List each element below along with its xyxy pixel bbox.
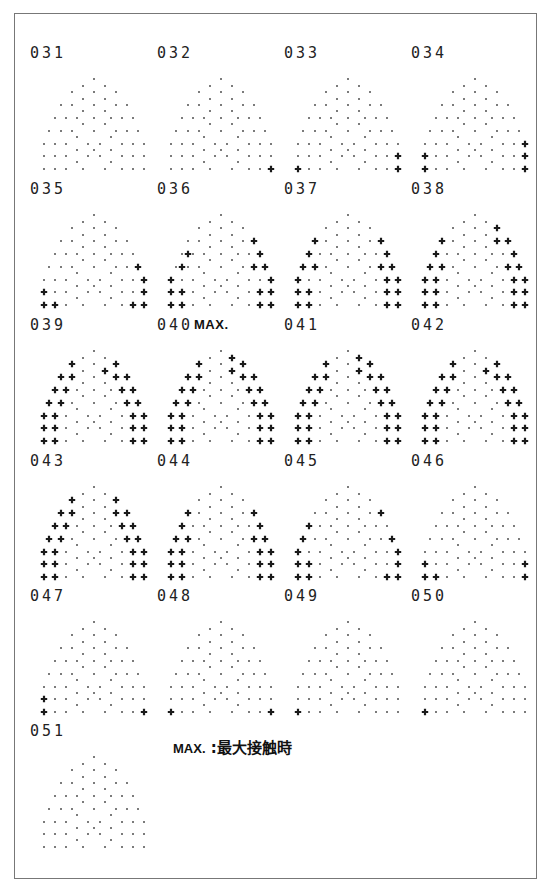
contact-cross-icon: [63, 523, 69, 529]
contact-cross-icon: [516, 400, 522, 406]
contact-cross-icon: [516, 264, 522, 270]
contact-cross-icon: [433, 387, 439, 393]
contact-cross-icon: [378, 264, 384, 270]
contact-cross-icon: [113, 374, 119, 380]
contact-cross-icon: [522, 302, 528, 308]
contact-cross-icon: [185, 510, 191, 516]
contact-cross-icon: [422, 709, 428, 715]
contact-cross-icon: [295, 413, 301, 419]
contact-cross-icon: [494, 225, 500, 231]
contact-cross-icon: [229, 355, 235, 361]
contact-cross-icon: [257, 438, 263, 444]
contact-cross-icon: [141, 561, 147, 567]
contact-cross-icon: [306, 251, 312, 257]
contact-cross-icon: [69, 361, 75, 367]
pattern-cell-036: 036: [157, 180, 282, 310]
contact-cross-icon: [268, 709, 274, 715]
contact-cross-icon: [52, 387, 58, 393]
contact-cross-icon: [251, 264, 257, 270]
contact-cross-icon: [190, 387, 196, 393]
contact-cross-icon: [130, 438, 136, 444]
legend-key: MAX.: [173, 741, 206, 756]
contact-dot-pattern: [411, 452, 536, 582]
contact-cross-icon: [173, 536, 179, 542]
contact-cross-icon: [124, 400, 130, 406]
contact-cross-icon: [389, 264, 395, 270]
contact-dot-pattern: [284, 587, 409, 717]
contact-cross-icon: [168, 561, 174, 567]
contact-dot-pattern: [30, 587, 155, 717]
contact-cross-icon: [522, 141, 528, 147]
contact-cross-icon: [439, 264, 445, 270]
contact-cross-icon: [124, 510, 130, 516]
legend-text: 最大接触時: [217, 739, 292, 757]
contact-cross-icon: [511, 277, 517, 283]
contact-cross-icon: [185, 400, 191, 406]
contact-cross-icon: [251, 510, 257, 516]
contact-cross-icon: [41, 709, 47, 715]
contact-cross-icon: [433, 425, 439, 431]
contact-cross-icon: [323, 361, 329, 367]
contact-cross-icon: [395, 425, 401, 431]
contact-cross-icon: [373, 387, 379, 393]
contact-cross-icon: [179, 523, 185, 529]
contact-cross-icon: [168, 277, 174, 283]
contact-cross-icon: [113, 497, 119, 503]
contact-cross-icon: [494, 238, 500, 244]
contact-cross-icon: [306, 413, 312, 419]
contact-cross-icon: [41, 696, 47, 702]
contact-cross-icon: [179, 574, 185, 580]
contact-cross-icon: [433, 438, 439, 444]
pattern-cell-047: 047: [30, 587, 155, 717]
contact-cross-icon: [262, 536, 268, 542]
contact-dot-pattern: [30, 722, 155, 852]
contact-cross-icon: [52, 549, 58, 555]
contact-cross-icon: [268, 549, 274, 555]
contact-cross-icon: [46, 400, 52, 406]
pattern-cell-051: 051: [30, 722, 155, 852]
contact-cross-icon: [522, 425, 528, 431]
contact-cross-icon: [378, 374, 384, 380]
contact-cross-icon: [295, 561, 301, 567]
contact-cross-icon: [130, 561, 136, 567]
contact-cross-icon: [41, 289, 47, 295]
contact-cross-icon: [494, 361, 500, 367]
pattern-cell-035: 035: [30, 180, 155, 310]
contact-cross-icon: [41, 302, 47, 308]
contact-cross-icon: [433, 251, 439, 257]
contact-cross-icon: [312, 238, 318, 244]
contact-cross-icon: [257, 289, 263, 295]
contact-cross-icon: [306, 302, 312, 308]
contact-cross-icon: [179, 425, 185, 431]
contact-cross-icon: [395, 561, 401, 567]
contact-cross-icon: [135, 264, 141, 270]
pattern-cell-046: 046: [411, 452, 536, 582]
contact-cross-icon: [179, 413, 185, 419]
contact-cross-icon: [505, 264, 511, 270]
contact-cross-icon: [130, 549, 136, 555]
contact-cross-icon: [312, 400, 318, 406]
contact-cross-icon: [312, 264, 318, 270]
contact-cross-icon: [522, 277, 528, 283]
contact-cross-icon: [522, 153, 528, 159]
contact-cross-icon: [384, 289, 390, 295]
contact-cross-icon: [295, 438, 301, 444]
contact-cross-icon: [511, 413, 517, 419]
contact-cross-icon: [522, 289, 528, 295]
contact-cross-icon: [494, 374, 500, 380]
contact-cross-icon: [511, 425, 517, 431]
contact-dot-pattern: [284, 316, 409, 446]
contact-cross-icon: [422, 166, 428, 172]
contact-cross-icon: [58, 374, 64, 380]
contact-cross-icon: [395, 302, 401, 308]
contact-cross-icon: [505, 374, 511, 380]
contact-cross-icon: [268, 413, 274, 419]
contact-cross-icon: [483, 368, 489, 374]
contact-cross-icon: [384, 425, 390, 431]
contact-cross-icon: [52, 561, 58, 567]
contact-cross-icon: [378, 400, 384, 406]
contact-cross-icon: [384, 251, 390, 257]
contact-cross-icon: [433, 302, 439, 308]
contact-cross-icon: [522, 574, 528, 580]
contact-cross-icon: [300, 536, 306, 542]
